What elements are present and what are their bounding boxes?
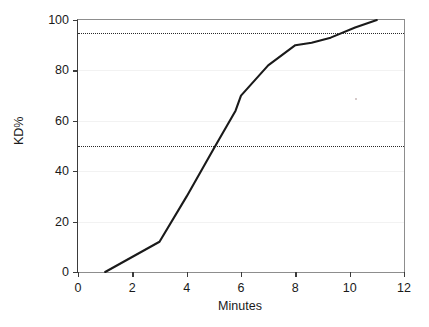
y-axis-title: KD% — [13, 117, 26, 145]
y-tick-label-40: 40 — [55, 165, 69, 178]
scan-speck — [355, 98, 357, 100]
x-tick-label-8: 8 — [292, 282, 299, 295]
y-tick-label-60: 60 — [55, 115, 69, 128]
x-tick-label-4: 4 — [183, 282, 190, 295]
x-tick-mark-12 — [404, 272, 405, 277]
x-tick-mark-6 — [241, 272, 242, 277]
x-axis-title: Minutes — [77, 300, 403, 313]
y-tick-label-20: 20 — [55, 215, 69, 228]
y-tick-label-0: 0 — [62, 266, 69, 279]
x-tick-mark-4 — [187, 272, 188, 277]
x-tick-mark-10 — [350, 272, 351, 277]
x-tick-label-0: 0 — [75, 282, 82, 295]
x-tick-label-12: 12 — [397, 282, 411, 295]
x-tick-label-6: 6 — [238, 282, 245, 295]
x-tick-mark-2 — [132, 272, 133, 277]
y-tick-label-80: 80 — [55, 64, 69, 77]
x-tick-mark-0 — [78, 272, 79, 277]
x-tick-mark-8 — [295, 272, 296, 277]
y-tick-label-100: 100 — [48, 14, 69, 27]
data-series-kd — [78, 20, 404, 272]
chart-figure: 100 80 60 40 20 0 0 2 4 6 8 10 12 Minute… — [0, 0, 429, 327]
x-tick-label-2: 2 — [129, 282, 136, 295]
plot-area: 100 80 60 40 20 0 0 2 4 6 8 10 12 — [77, 19, 405, 273]
x-tick-label-10: 10 — [343, 282, 357, 295]
series-line-kd — [105, 20, 377, 272]
